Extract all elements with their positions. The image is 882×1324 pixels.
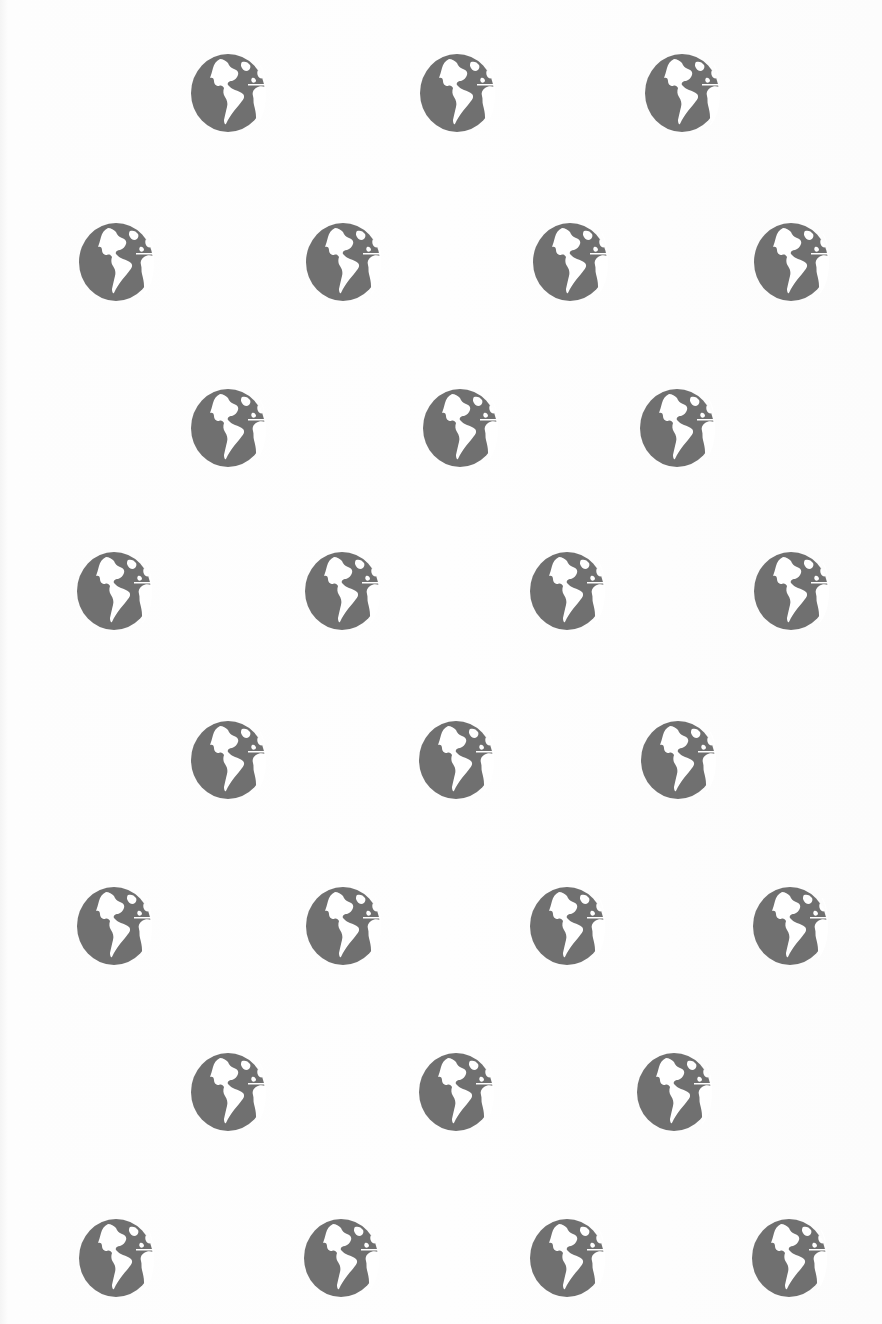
globe-icon bbox=[532, 222, 608, 302]
globe-icon bbox=[644, 53, 720, 133]
globe-icon bbox=[78, 1218, 154, 1298]
globe-icon bbox=[640, 720, 716, 800]
globe-icon bbox=[752, 886, 828, 966]
globe-icon bbox=[305, 222, 381, 302]
globe-icon bbox=[190, 720, 266, 800]
globe-icon bbox=[190, 388, 266, 468]
globe-icon bbox=[422, 388, 498, 468]
globe-icon bbox=[76, 886, 152, 966]
globe-icon bbox=[529, 886, 605, 966]
globe-pattern-page bbox=[0, 0, 882, 1324]
globe-icon bbox=[639, 388, 715, 468]
globe-icon bbox=[418, 1052, 494, 1132]
globe-icon bbox=[529, 1218, 605, 1298]
globe-icon bbox=[305, 886, 381, 966]
globe-icon bbox=[303, 1218, 379, 1298]
globe-icon bbox=[419, 53, 495, 133]
globe-icon bbox=[753, 222, 829, 302]
globe-icon bbox=[76, 551, 152, 631]
globe-icon bbox=[636, 1052, 712, 1132]
globe-icon bbox=[751, 1218, 827, 1298]
globe-icon bbox=[78, 222, 154, 302]
globe-icon bbox=[418, 720, 494, 800]
globe-icon bbox=[190, 1052, 266, 1132]
globe-icon bbox=[190, 53, 266, 133]
globe-icon bbox=[753, 551, 829, 631]
globe-icon bbox=[529, 551, 605, 631]
globe-icon bbox=[304, 551, 380, 631]
